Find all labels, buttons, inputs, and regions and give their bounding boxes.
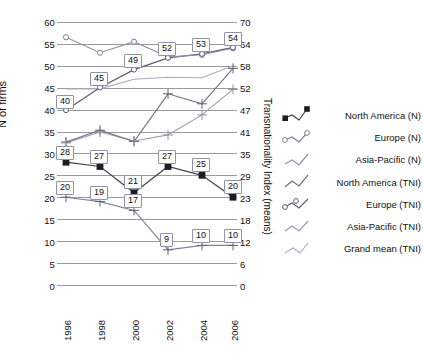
data-label-europe-n-2006: 10 [224, 229, 242, 243]
legend-label-grand-mean-tni: Grand mean (TNI) [317, 243, 421, 254]
data-label-europe-tni-2004: 53 [192, 38, 210, 52]
chart-root: 60 55 50 45 40 35 30 25 20 15 10 5 0 70 … [0, 0, 423, 363]
right-tick-12: 12 [240, 237, 270, 248]
left-tick-45: 45 [25, 83, 55, 94]
legend-key-asia-pacific-tni [283, 217, 317, 237]
right-tick-58: 58 [240, 61, 270, 72]
legend-item-grand-mean-tni[interactable]: Grand mean (TNI) [283, 238, 421, 260]
data-label-europe-tni-1996: 40 [56, 95, 74, 109]
left-tick-25: 25 [25, 171, 55, 182]
legend-key-asia-pacific-n [283, 150, 317, 170]
right-tick-70: 70 [240, 17, 270, 28]
chart-legend: North America (N) Europe (N) Asia-Pacifi… [283, 104, 421, 260]
left-tick-60: 60 [25, 17, 55, 28]
legend-key-europe-tni [283, 194, 317, 214]
left-tick-5: 5 [25, 259, 55, 270]
data-label-europe-tni-1998: 45 [90, 72, 108, 86]
data-label-europe-n-2000: 17 [124, 194, 142, 208]
legend-label-asia-pacific-n: Asia-Pacific (N) [317, 154, 421, 165]
right-tick-6: 6 [240, 259, 270, 270]
right-tick-52: 52 [240, 83, 270, 94]
left-tick-40: 40 [25, 105, 55, 116]
data-label-europe-n-1998: 19 [90, 186, 108, 200]
x-tick-2002: 2002 [164, 320, 175, 341]
left-tick-0: 0 [25, 281, 55, 292]
legend-label-europe-tni: Europe (TNI) [317, 199, 421, 210]
right-axis-title: Transnationality Index (means) [262, 98, 273, 235]
x-tick-2006: 2006 [229, 320, 240, 341]
x-tick-2004: 2004 [198, 320, 209, 341]
data-label-north-america-n-2004: 25 [192, 158, 210, 172]
data-label-europe-tni-2000: 49 [124, 54, 142, 68]
data-label-europe-tni-2006: 54 [224, 32, 242, 46]
data-label-europe-n-2002: 9 [160, 233, 173, 247]
legend-item-asia-pacific-tni[interactable]: Asia-Pacific (TNI) [283, 215, 421, 237]
legend-item-north-america-tni[interactable]: North America (TNI) [283, 171, 421, 193]
left-axis-title: N of firms [0, 81, 8, 128]
legend-item-asia-pacific-n[interactable]: Asia-Pacific (N) [283, 149, 421, 171]
legend-label-asia-pacific-tni: Asia-Pacific (TNI) [317, 221, 421, 232]
legend-item-europe-n[interactable]: Europe (N) [283, 126, 421, 148]
left-tick-50: 50 [25, 61, 55, 72]
left-tick-55: 55 [25, 39, 55, 50]
data-label-north-america-n-2006: 20 [224, 180, 242, 194]
left-tick-35: 35 [25, 127, 55, 138]
data-label-europe-n-1996: 20 [56, 181, 74, 195]
x-tick-2000: 2000 [130, 320, 141, 341]
series-lines [57, 22, 237, 285]
legend-item-europe-tni[interactable]: Europe (TNI) [283, 193, 421, 215]
legend-label-north-america-tni: North America (TNI) [317, 177, 421, 188]
data-label-north-america-n-2000: 21 [124, 175, 142, 189]
plot-area: 40 45 49 52 53 54 28 27 21 27 25 20 20 1… [57, 22, 237, 285]
legend-key-north-america-n [283, 105, 317, 125]
legend-key-grand-mean-tni [283, 239, 317, 259]
right-tick-0: 0 [240, 281, 270, 292]
legend-item-north-america-n[interactable]: North America (N) [283, 104, 421, 126]
left-tick-10: 10 [25, 237, 55, 248]
data-label-north-america-n-1996: 28 [56, 146, 74, 160]
x-tick-1998: 1998 [96, 320, 107, 341]
data-label-europe-tni-2002: 52 [158, 42, 176, 56]
data-label-europe-n-2004: 10 [192, 229, 210, 243]
legend-label-north-america-n: North America (N) [317, 110, 421, 121]
right-tick-64: 64 [240, 39, 270, 50]
data-label-north-america-n-2002: 27 [158, 150, 176, 164]
x-tick-1996: 1996 [62, 320, 73, 341]
legend-label-europe-n: Europe (N) [317, 132, 421, 143]
left-tick-15: 15 [25, 215, 55, 226]
left-tick-20: 20 [25, 193, 55, 204]
data-label-north-america-n-1998: 27 [90, 150, 108, 164]
legend-key-north-america-tni [283, 172, 317, 192]
legend-key-europe-n [283, 127, 317, 147]
left-tick-30: 30 [25, 149, 55, 160]
